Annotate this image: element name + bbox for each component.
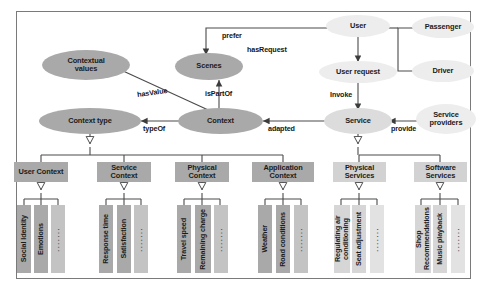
leaf-software-services-more[interactable]: ······· (451, 205, 465, 273)
category-physical-services[interactable]: Physical Services (333, 162, 386, 182)
node-passenger[interactable]: Passenger (412, 16, 474, 38)
category-label: Software Services (425, 164, 455, 181)
leaf-remaining-charge[interactable]: Remaining charge (195, 205, 211, 273)
edge-label-invoke: Invoke (330, 90, 352, 99)
leaf-response-time[interactable]: Response time (99, 205, 113, 273)
leaf-regulating-air-conditioning[interactable]: Regulating air conditioning (334, 205, 350, 273)
leaf-road-conditions[interactable]: Road conditions (276, 205, 290, 273)
leaf-label: Shop Recommendations (415, 205, 431, 273)
ellipsis-icon: ······· (138, 227, 145, 252)
node-label: Passenger (425, 23, 462, 31)
node-label: Service (345, 117, 371, 125)
category-label: Application Context (263, 164, 302, 181)
leaf-travel-speed[interactable]: Travel speed (177, 205, 191, 273)
edge-label-typeof: typeOf (143, 124, 165, 133)
node-contextual-values[interactable]: Contextual values (42, 50, 130, 80)
edge-label-adapted: adapted (268, 124, 295, 133)
ellipsis-icon: ······· (455, 227, 462, 252)
leaf-label: Social Identity (20, 215, 28, 262)
node-label: User request (336, 68, 380, 76)
node-label: Context (207, 117, 234, 125)
node-service-providers[interactable]: Service providers (416, 104, 476, 134)
leaf-emotions[interactable]: Emotions (34, 205, 48, 273)
diagram-root: Contextual values Scenes User Passenger … (0, 0, 486, 290)
category-service-context[interactable]: Service Context (97, 162, 151, 182)
category-software-services[interactable]: Software Services (414, 162, 467, 182)
ellipsis-icon: ······· (55, 227, 62, 252)
category-application-context[interactable]: Application Context (252, 162, 314, 182)
category-label: User Context (19, 168, 64, 176)
node-driver[interactable]: Driver (412, 60, 474, 82)
edge-label-ispartof: isPartOf (205, 89, 232, 98)
leaf-satisfaction[interactable]: Satisfaction (117, 205, 131, 273)
leaf-label: Response time (102, 214, 110, 264)
node-label: Driver (433, 67, 454, 75)
ellipsis-icon: ······· (298, 227, 305, 252)
leaf-shop-recommendations[interactable]: Shop Recommendations (415, 205, 431, 273)
leaf-application-context-more[interactable]: ······· (294, 205, 308, 273)
leaf-label: Remaining charge (199, 209, 207, 270)
node-label: Context type (68, 117, 112, 125)
node-label: User (350, 22, 366, 30)
category-user-context[interactable]: User Context (14, 162, 68, 182)
leaf-label: Travel speed (180, 218, 188, 260)
ellipsis-icon: ······· (374, 227, 381, 252)
leaf-physical-context-more[interactable]: ······· (214, 205, 228, 273)
node-label: Service providers (430, 111, 463, 128)
leaf-label: Satisfaction (120, 219, 128, 259)
leaf-music-playback[interactable]: Music playback (433, 205, 447, 273)
leaf-label: Music playback (436, 213, 444, 265)
leaf-social-identity[interactable]: Social Identity (17, 205, 31, 273)
leaf-label: Emotions (37, 223, 45, 255)
leaf-label: Regulating air conditioning (334, 205, 350, 273)
node-context-type[interactable]: Context type (39, 108, 141, 134)
node-user[interactable]: User (326, 15, 390, 37)
node-user-request[interactable]: User request (319, 61, 397, 83)
node-service[interactable]: Service (324, 108, 392, 134)
node-label: Contextual values (67, 57, 104, 74)
category-physical-context[interactable]: Physical Context (175, 162, 229, 182)
category-label: Physical Context (187, 164, 216, 181)
edge-label-hasrequest: hasRequest (247, 45, 287, 54)
leaf-label: Weather (261, 225, 269, 253)
category-label: Service Context (111, 164, 138, 181)
leaf-user-context-more[interactable]: ······· (51, 205, 65, 273)
leaf-label: Seat adjustment (355, 212, 363, 266)
node-label: Scenes (196, 62, 221, 70)
edge-label-prefer: prefer (222, 31, 242, 40)
leaf-physical-services-more[interactable]: ······· (370, 205, 384, 273)
category-label: Physical Services (345, 164, 375, 181)
ellipsis-icon: ······· (218, 227, 225, 252)
node-context[interactable]: Context (178, 108, 263, 134)
edge-label-provide: provide (391, 124, 416, 133)
node-scenes[interactable]: Scenes (175, 53, 243, 80)
leaf-weather[interactable]: Weather (258, 205, 272, 273)
leaf-label: Road conditions (279, 212, 287, 267)
leaf-seat-adjustment[interactable]: Seat adjustment (352, 205, 366, 273)
leaf-service-context-more[interactable]: ······· (134, 205, 148, 273)
